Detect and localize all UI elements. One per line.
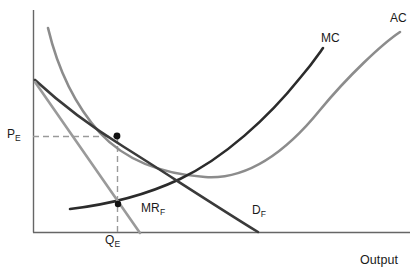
mr-mc-intersection-dot bbox=[115, 201, 121, 207]
x-axis-title: Output bbox=[360, 254, 398, 267]
marginal-revenue-curve bbox=[35, 82, 140, 233]
economics-diagram: PE QE MRF DF MC AC Output bbox=[0, 0, 413, 272]
quantity-equilibrium-label: QE bbox=[105, 234, 120, 249]
demand-label: DF bbox=[252, 204, 266, 219]
average-cost-curve bbox=[48, 28, 400, 177]
price-equilibrium-label: PE bbox=[7, 128, 21, 143]
marginal-revenue-label: MRF bbox=[141, 202, 165, 217]
average-cost-label: AC bbox=[390, 12, 407, 24]
equilibrium-point-dot bbox=[114, 133, 121, 140]
marginal-cost-label: MC bbox=[321, 32, 340, 44]
plot-canvas bbox=[0, 0, 413, 272]
